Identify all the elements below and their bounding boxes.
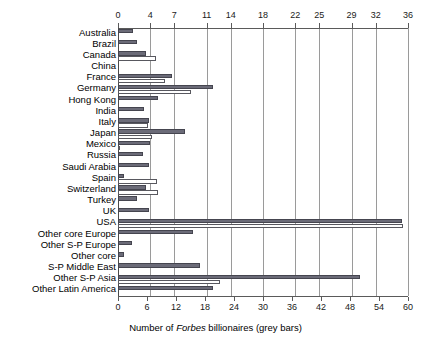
- bottom-axis-tick-18: 18: [192, 302, 218, 313]
- bar-white-other-s-p-asia: [118, 280, 220, 284]
- category-label-japan: Japan: [90, 128, 116, 138]
- gridline-vertical: [352, 28, 353, 296]
- bar-grey-other-latin-america: [118, 286, 213, 290]
- category-label-france: France: [86, 72, 116, 82]
- bar-grey-brazil: [118, 40, 137, 44]
- gridline-vertical: [408, 28, 409, 296]
- bar-grey-italy: [118, 118, 149, 122]
- category-label-hong-kong: Hong Kong: [68, 95, 116, 105]
- gridline-vertical: [319, 28, 320, 296]
- bottom-axis-tick-mark: [147, 297, 148, 301]
- top-axis-tick-22: 22: [282, 10, 308, 21]
- gridline-vertical: [231, 28, 232, 296]
- bar-grey-japan: [118, 129, 185, 133]
- bar-grey-canada: [118, 51, 146, 55]
- bar-white-spain: [118, 179, 157, 183]
- category-label-s-p-middle-east: S-P Middle East: [48, 262, 116, 272]
- gridline-vertical: [174, 28, 175, 296]
- bar-white-germany: [118, 90, 191, 94]
- bottom-axis-tick-mark: [205, 297, 206, 301]
- bottom-axis-tick-6: 6: [134, 302, 160, 313]
- bar-grey-spain: [118, 174, 124, 178]
- bottom-axis-tick-mark: [118, 297, 119, 301]
- bar-white-canada: [118, 56, 156, 60]
- bar-grey-other-s-p-europe: [118, 241, 132, 245]
- category-label-other-core: Other core: [71, 251, 116, 261]
- category-label-india: India: [95, 106, 116, 116]
- bottom-axis-tick-mark: [379, 297, 380, 301]
- x-axis-title: Number of Forbes billionaires (grey bars…: [0, 322, 431, 333]
- bottom-axis-tick-mark: [408, 297, 409, 301]
- chart-figure: 0471114182225293236 06121824303642485460…: [0, 0, 431, 344]
- bottom-axis-tick-24: 24: [221, 302, 247, 313]
- category-label-other-core-europe: Other core Europe: [38, 229, 116, 239]
- category-label-germany: Germany: [77, 83, 116, 93]
- bottom-axis-line: [118, 296, 408, 297]
- bottom-axis-tick-mark: [234, 297, 235, 301]
- bottom-axis-tick-60: 60: [395, 302, 421, 313]
- top-axis-tick-36: 36: [395, 10, 421, 21]
- category-label-mexico: Mexico: [86, 139, 116, 149]
- top-axis-tick-14: 14: [218, 10, 244, 21]
- bar-grey-saudi-arabia: [118, 163, 149, 167]
- bar-grey-germany: [118, 85, 213, 89]
- bar-white-mexico: [118, 146, 120, 150]
- category-label-spain: Spain: [92, 173, 116, 183]
- bar-grey-russia: [118, 152, 143, 156]
- bar-grey-hong-kong: [118, 96, 158, 100]
- category-label-china: China: [91, 61, 116, 71]
- category-label-australia: Australia: [79, 28, 116, 38]
- bottom-axis-tick-mark: [176, 297, 177, 301]
- category-label-canada: Canada: [83, 50, 116, 60]
- bar-grey-india: [118, 107, 144, 111]
- bottom-axis-tick-mark: [263, 297, 264, 301]
- bar-white-switzerland: [118, 190, 158, 194]
- top-axis-tick-18: 18: [250, 10, 276, 21]
- top-axis-tick-7: 7: [161, 10, 187, 21]
- bottom-axis-tick-48: 48: [337, 302, 363, 313]
- top-axis-tick-11: 11: [194, 10, 220, 21]
- gridline-vertical: [263, 28, 264, 296]
- gridline-vertical: [295, 28, 296, 296]
- bottom-axis-tick-mark: [350, 297, 351, 301]
- bottom-axis-tick-36: 36: [279, 302, 305, 313]
- category-axis-labels: AustraliaBrazilCanadaChinaFranceGermanyH…: [0, 0, 116, 300]
- gridline-vertical: [150, 28, 151, 296]
- bar-grey-mexico: [118, 141, 150, 145]
- category-label-saudi-arabia: Saudi Arabia: [62, 162, 116, 172]
- top-axis-tick-29: 29: [339, 10, 365, 21]
- category-label-turkey: Turkey: [87, 195, 116, 205]
- bottom-axis-tick-42: 42: [308, 302, 334, 313]
- bottom-axis-tick-mark: [292, 297, 293, 301]
- top-axis-tick-32: 32: [363, 10, 389, 21]
- bar-grey-other-core: [118, 252, 124, 256]
- category-label-brazil: Brazil: [92, 39, 116, 49]
- bar-grey-switzerland: [118, 185, 146, 189]
- category-label-switzerland: Switzerland: [67, 184, 116, 194]
- top-axis-tick-4: 4: [137, 10, 163, 21]
- bottom-axis-tick-12: 12: [163, 302, 189, 313]
- x-axis-title-italic: Forbes: [176, 322, 206, 333]
- bar-grey-turkey: [118, 196, 137, 200]
- bar-grey-other-core-europe: [118, 230, 193, 234]
- x-axis-title-suffix: billionaires (grey bars): [206, 322, 302, 333]
- category-label-usa: USA: [96, 217, 116, 227]
- bar-grey-s-p-middle-east: [118, 263, 200, 267]
- bottom-axis-tick-mark: [321, 297, 322, 301]
- category-label-uk: UK: [103, 206, 116, 216]
- top-axis-tick-25: 25: [306, 10, 332, 21]
- bar-grey-uk: [118, 208, 149, 212]
- gridline-vertical: [207, 28, 208, 296]
- bar-grey-france: [118, 74, 172, 78]
- bar-grey-usa: [118, 219, 402, 223]
- bottom-axis-tick-0: 0: [105, 302, 131, 313]
- category-label-other-latin-america: Other Latin America: [32, 284, 116, 294]
- bar-white-italy: [118, 123, 148, 127]
- bar-white-japan: [118, 135, 152, 139]
- bar-grey-other-s-p-asia: [118, 275, 360, 279]
- top-axis-line: [118, 28, 408, 29]
- gridline-vertical: [376, 28, 377, 296]
- bottom-axis-tick-54: 54: [366, 302, 392, 313]
- category-label-other-s-p-europe: Other S-P Europe: [41, 240, 116, 250]
- x-axis-title-prefix: Number of: [129, 322, 176, 333]
